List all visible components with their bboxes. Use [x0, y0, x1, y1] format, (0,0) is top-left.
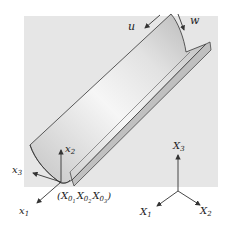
local-x3-label: x3 [12, 164, 23, 177]
global-X1-label: X1 [139, 206, 152, 219]
w-label: w [190, 14, 200, 27]
u-label: u [128, 20, 135, 33]
global-X2-axis [178, 191, 200, 205]
global-X2-label: X2 [199, 205, 212, 218]
origin-label: (X01X02X03) [57, 190, 111, 204]
local-x1-label: x1 [19, 205, 29, 218]
trough-shell-diagram: u w x2 x3 x1 (X01X02X03) X3 X1 X2 [0, 0, 226, 230]
global-X1-axis [157, 191, 178, 206]
